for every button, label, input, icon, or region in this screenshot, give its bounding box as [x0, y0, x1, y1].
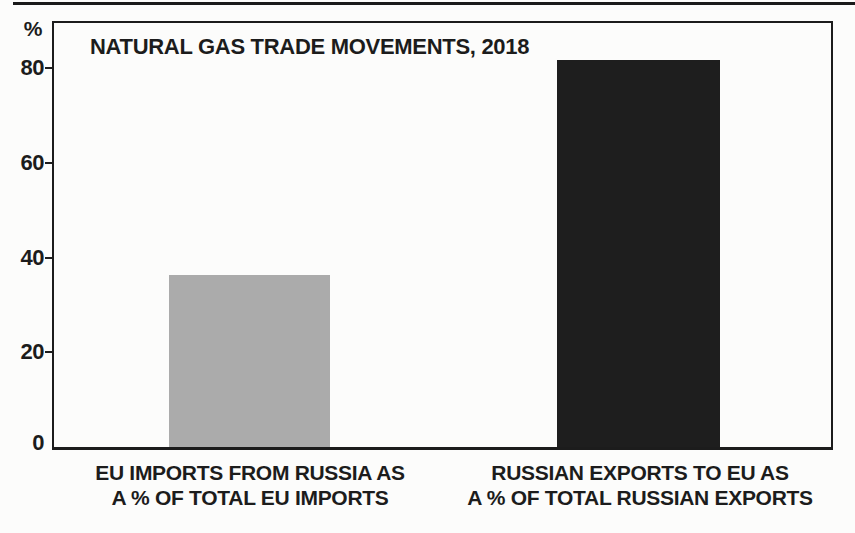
y-tick-label-60: 60: [2, 152, 44, 174]
y-axis-unit-label: %: [20, 17, 46, 41]
category-label-russian-exports: RUSSIAN EXPORTS TO EU AS A % OF TOTAL RU…: [435, 460, 845, 510]
y-tick-label-80: 80: [2, 57, 44, 79]
category-label-eu-imports-line2: A % OF TOTAL EU IMPORTS: [55, 485, 445, 510]
category-label-eu-imports: EU IMPORTS FROM RUSSIA AS A % OF TOTAL E…: [55, 460, 445, 510]
y-tick-label-20: 20: [2, 341, 44, 363]
category-label-eu-imports-line1: EU IMPORTS FROM RUSSIA AS: [55, 460, 445, 485]
bar-eu-imports-from-russia: [169, 275, 330, 447]
bar-russian-exports-to-eu: [557, 60, 720, 447]
natural-gas-trade-figure: % 80 60 40 20 0 NATURAL GAS TRADE MOVEME…: [0, 0, 855, 533]
y-tick-label-0: 0: [2, 432, 44, 454]
category-label-russian-exports-line1: RUSSIAN EXPORTS TO EU AS: [435, 460, 845, 485]
category-label-russian-exports-line2: A % OF TOTAL RUSSIAN EXPORTS: [435, 485, 845, 510]
y-tick-label-40: 40: [2, 247, 44, 269]
top-divider-rule: [13, 2, 855, 5]
plot-area: NATURAL GAS TRADE MOVEMENTS, 2018: [52, 21, 833, 450]
chart-title: NATURAL GAS TRADE MOVEMENTS, 2018: [90, 34, 529, 60]
